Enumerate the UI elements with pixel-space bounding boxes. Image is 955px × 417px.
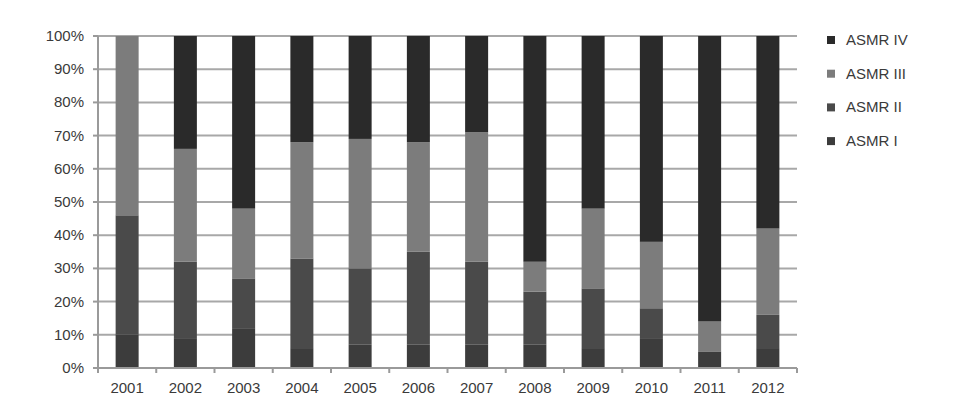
x-tick-label: 2011 bbox=[693, 379, 725, 396]
legend-label-asmr-iv: ASMR IV bbox=[846, 31, 908, 48]
bar-segment-asmr-ii-2004 bbox=[290, 258, 313, 348]
legend-swatch-asmr-iv bbox=[827, 36, 835, 44]
bar-segment-asmr-iii-2009 bbox=[582, 209, 605, 289]
bar-segment-asmr-iv-2010 bbox=[640, 36, 663, 242]
x-tick-label: 2002 bbox=[169, 379, 202, 396]
axes bbox=[93, 36, 797, 373]
y-tick-label: 20% bbox=[54, 293, 84, 310]
bar-segment-asmr-ii-2010 bbox=[640, 308, 663, 338]
x-tick-label: 2006 bbox=[402, 379, 435, 396]
legend-label-asmr-i: ASMR I bbox=[846, 132, 898, 149]
y-tick-label: 100% bbox=[46, 27, 84, 44]
bar-segment-asmr-i-2009 bbox=[582, 348, 605, 368]
bar-segment-asmr-i-2010 bbox=[640, 338, 663, 368]
bar-segment-asmr-i-2005 bbox=[349, 345, 372, 368]
y-axis-tick-labels: 0%10%20%30%40%50%60%70%80%90%100% bbox=[46, 27, 84, 376]
x-tick-label: 2012 bbox=[751, 379, 784, 396]
bar-segment-asmr-iii-2012 bbox=[756, 229, 779, 315]
bar-segment-asmr-iii-2003 bbox=[232, 209, 255, 279]
bar-segment-asmr-iv-2005 bbox=[349, 36, 372, 139]
bar-segment-asmr-iv-2004 bbox=[290, 36, 313, 142]
bar-segment-asmr-iv-2006 bbox=[407, 36, 430, 142]
bar-segment-asmr-ii-2007 bbox=[465, 262, 488, 345]
bar-segment-asmr-iv-2003 bbox=[232, 36, 255, 209]
bar-segment-asmr-i-2011 bbox=[698, 351, 721, 368]
y-tick-label: 70% bbox=[54, 127, 84, 144]
bar-segment-asmr-iv-2007 bbox=[465, 36, 488, 132]
bar-segment-asmr-ii-2005 bbox=[349, 268, 372, 344]
bar-segment-asmr-i-2008 bbox=[523, 345, 546, 368]
bar-segment-asmr-iii-2006 bbox=[407, 142, 430, 252]
bar-segment-asmr-i-2003 bbox=[232, 328, 255, 368]
bar-segment-asmr-ii-2008 bbox=[523, 292, 546, 345]
bar-segment-asmr-i-2006 bbox=[407, 345, 430, 368]
legend-swatch-asmr-i bbox=[827, 137, 835, 145]
bar-segment-asmr-iii-2010 bbox=[640, 242, 663, 308]
legend-swatch-asmr-iii bbox=[827, 70, 835, 78]
x-tick-label: 2003 bbox=[227, 379, 260, 396]
bar-segment-asmr-iii-2001 bbox=[116, 36, 139, 215]
bar-segment-asmr-iii-2004 bbox=[290, 142, 313, 258]
gridlines bbox=[98, 36, 797, 335]
bar-segment-asmr-iv-2012 bbox=[756, 36, 779, 229]
y-tick-label: 30% bbox=[54, 259, 84, 276]
bar-segment-asmr-ii-2002 bbox=[174, 262, 197, 338]
bar-segment-asmr-ii-2012 bbox=[756, 315, 779, 348]
bar-segment-asmr-iii-2002 bbox=[174, 149, 197, 262]
y-tick-label: 10% bbox=[54, 326, 84, 343]
bar-segment-asmr-iii-2005 bbox=[349, 139, 372, 268]
x-tick-label: 2005 bbox=[343, 379, 376, 396]
y-tick-label: 90% bbox=[54, 60, 84, 77]
bar-segment-asmr-i-2012 bbox=[756, 348, 779, 368]
bar-segment-asmr-iv-2008 bbox=[523, 36, 546, 262]
legend: ASMR IVASMR IIIASMR IIASMR I bbox=[827, 31, 908, 149]
bar-segment-asmr-iii-2007 bbox=[465, 132, 488, 261]
bar-segment-asmr-iii-2008 bbox=[523, 262, 546, 292]
y-tick-label: 0% bbox=[62, 359, 84, 376]
legend-swatch-asmr-ii bbox=[827, 103, 835, 111]
x-tick-label: 2004 bbox=[285, 379, 318, 396]
bar-segment-asmr-iv-2011 bbox=[698, 36, 721, 322]
stacked-bar-chart: 0%10%20%30%40%50%60%70%80%90%100% 200120… bbox=[0, 0, 955, 417]
bar-segment-asmr-i-2007 bbox=[465, 345, 488, 368]
x-axis-tick-labels: 2001200220032004200520062007200820092010… bbox=[110, 379, 784, 396]
x-tick-label: 2009 bbox=[576, 379, 609, 396]
y-tick-label: 80% bbox=[54, 93, 84, 110]
bar-segment-asmr-i-2004 bbox=[290, 348, 313, 368]
legend-label-asmr-ii: ASMR II bbox=[846, 98, 902, 115]
bar-segment-asmr-ii-2009 bbox=[582, 288, 605, 348]
y-tick-label: 40% bbox=[54, 226, 84, 243]
bar-segment-asmr-ii-2003 bbox=[232, 278, 255, 328]
x-tick-label: 2010 bbox=[635, 379, 668, 396]
bar-segment-asmr-i-2001 bbox=[116, 335, 139, 368]
bar-segment-asmr-i-2002 bbox=[174, 338, 197, 368]
y-tick-label: 50% bbox=[54, 193, 84, 210]
x-tick-label: 2001 bbox=[110, 379, 143, 396]
x-tick-label: 2007 bbox=[460, 379, 493, 396]
legend-label-asmr-iii: ASMR III bbox=[846, 65, 906, 82]
bar-segment-asmr-ii-2001 bbox=[116, 215, 139, 335]
y-tick-label: 60% bbox=[54, 160, 84, 177]
bar-segment-asmr-ii-2006 bbox=[407, 252, 430, 345]
bar-segment-asmr-iv-2002 bbox=[174, 36, 197, 149]
bar-segment-asmr-iii-2011 bbox=[698, 322, 721, 352]
bar-segment-asmr-iv-2009 bbox=[582, 36, 605, 209]
x-tick-label: 2008 bbox=[518, 379, 551, 396]
